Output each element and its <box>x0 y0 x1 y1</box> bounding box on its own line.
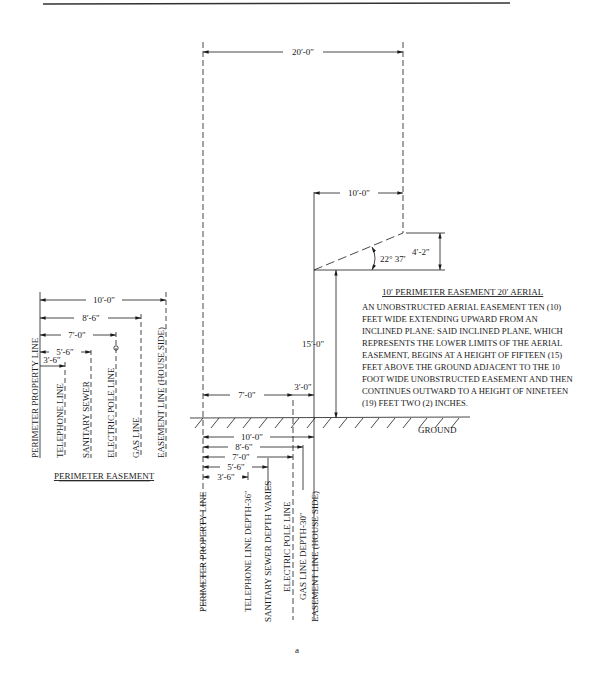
ug-dim-7ft: 7′-0″ <box>232 452 250 462</box>
dim-ground-7ft: 7′-0″ <box>238 390 256 400</box>
dim-10ft: 10′-0″ <box>93 295 115 305</box>
dim-8ft6: 8′-6″ <box>82 313 100 323</box>
ug-dim-10ft: 10′-0″ <box>241 432 263 442</box>
note-line-1: AN UNOBSTRUCTED AERIAL EASEMENT TEN (10) <box>362 302 561 312</box>
underground-labels: PERIMETER PROPERTY LINE TELEPHONE LINE D… <box>198 481 320 655</box>
dim-7ft: 7′-0″ <box>68 330 86 340</box>
note-line-9: (19) FEET TWO (2) INCHES. <box>362 398 468 408</box>
note-line-8: CONTINUES OUTWARD TO A HEIGHT OF NINETEE… <box>362 386 569 396</box>
underground-dims: 10′-0″ 8′-6″ 7′-0″ 5′-6″ 3′-6″ <box>210 431 270 482</box>
ug-dim-3ft6: 3′-6″ <box>217 472 235 482</box>
perimeter-easement-dims: 10′-0″ 8′-6″ 7′-0″ 5′-6″ 3′-6″ <box>43 294 122 365</box>
ug-label-electric: ELECTRIC POLE LINE <box>282 501 292 592</box>
easement-diagram: 10′-0″ 8′-6″ 7′-0″ 5′-6″ 3′-6″ PERIMETER… <box>0 0 593 675</box>
label-easement-line: EASEMENT LINE (HOUSE SIDE) <box>156 327 166 458</box>
ug-label-easement: EASEMENT LINE (HOUSE SIDE) <box>310 491 320 622</box>
note-line-3: INCLINED PLANE: SAID INCLINED PLANE, WHI… <box>362 326 563 336</box>
ug-dim-5ft6: 5′-6″ <box>227 462 245 472</box>
dim-aerial-10ft: 10′-0″ <box>348 188 370 198</box>
label-gas-line: GAS LINE <box>131 417 141 458</box>
dim-4ft2: 4′-2″ <box>412 247 430 257</box>
aerial-note: 10′ PERIMETER EASEMENT 20′ AERIAL AN UNO… <box>362 287 573 408</box>
label-sanitary-sewer: SANITARY SEWER <box>81 381 91 458</box>
dim-3ft6: 3′-6″ <box>43 355 61 365</box>
ug-label-telephone: TELEPHONE LINE DEPTH-36″ <box>243 490 253 612</box>
note-line-5: EASEMENT, BEGINS AT A HEIGHT OF FIFTEEN … <box>362 350 562 360</box>
dim-20ft: 20′-0″ <box>292 47 314 57</box>
note-line-7: FOOT WIDE UNOBSTRUCTED EASEMENT AND THEN <box>362 374 573 384</box>
note-line-4: REPRESENTS THE LOWER LIMITS OF THE AERIA… <box>362 338 562 348</box>
note-line-6: FEET ABOVE THE GROUND ADJACENT TO THE 10 <box>362 362 560 372</box>
perimeter-easement-title: PERIMETER EASEMENT <box>54 471 155 481</box>
figure-label: a <box>295 645 299 655</box>
ug-label-sewer: SANITARY SEWER DEPTH VARIES <box>263 481 273 622</box>
top-rule <box>43 3 510 4</box>
ug-label-gas: GAS LINE DEPTH-30″ <box>298 512 308 600</box>
ground-label: GROUND <box>418 425 457 435</box>
ug-label-perimeter: PERIMETER PROPERTY LINE <box>198 491 208 612</box>
angle-value: 22° 37′ <box>380 254 406 264</box>
note-title: 10′ PERIMETER EASEMENT 20′ AERIAL <box>382 287 543 297</box>
label-perimeter-property-line: PERIMETER PROPERTY LINE <box>30 337 40 458</box>
note-line-2: FEET WIDE EXTENDING UPWARD FROM AN <box>362 314 538 324</box>
label-telephone-line: TELEPHONE LINE <box>55 383 65 458</box>
ug-dim-8ft6: 8′-6″ <box>235 442 253 452</box>
dim-ground-3ft: 3′-0″ <box>294 382 312 392</box>
dim-15ft: 15′-0″ <box>302 339 324 349</box>
label-electric-pole-line: ELECTRIC POLE LINE <box>106 367 116 458</box>
